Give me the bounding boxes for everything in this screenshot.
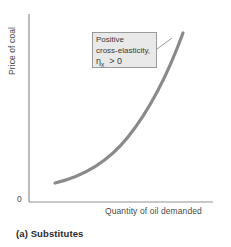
callout-line-1: Positive: [96, 35, 156, 46]
figure-caption: (a) Substitutes: [16, 228, 83, 239]
callout-comparison: > 0: [109, 56, 122, 66]
figure-substitutes: Price of coal Quantity of oil demanded 0…: [0, 0, 231, 247]
x-axis-label: Quantity of oil demanded: [105, 206, 202, 216]
eta-subscript: x: [101, 61, 104, 68]
callout-leader-line: [157, 38, 172, 49]
callout-formula: ηx > 0: [96, 56, 156, 70]
origin-label: 0: [17, 194, 22, 204]
callout-line-2: cross-elasticity,: [96, 46, 156, 57]
callout-box: Positive cross-elasticity, ηx > 0: [92, 32, 157, 68]
y-axis-label: Price of coal: [7, 20, 17, 82]
